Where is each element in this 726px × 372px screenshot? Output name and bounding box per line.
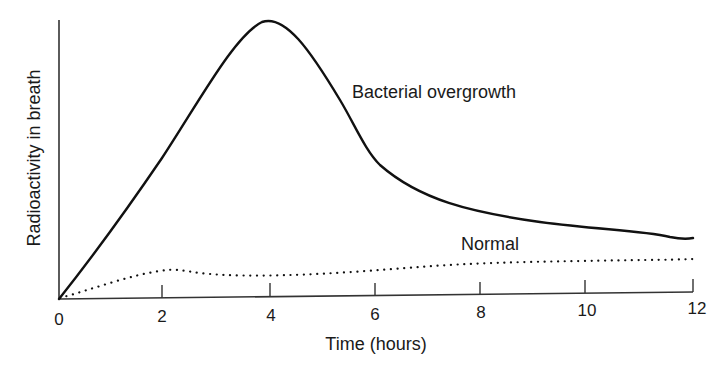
tick-label-12: 12 [688,299,707,318]
x-axis [59,292,693,299]
tick-label-2: 2 [157,307,166,326]
x-axis-title: Time (hours) [325,334,426,354]
tick-label-6: 6 [370,305,379,324]
tick-label-8: 8 [476,303,485,322]
series-normal [60,259,693,298]
tick-label-4: 4 [266,306,275,325]
label-normal: Normal [461,234,519,254]
series-bacterial-overgrowth [59,21,693,299]
x-tick-labels: 0 2 4 6 8 10 12 [54,299,706,329]
label-bacterial-overgrowth: Bacterial overgrowth [352,82,516,102]
y-axis-title: Radioactivity in breath [24,69,44,246]
tick-label-10: 10 [578,301,597,320]
chart-svg: 0 2 4 6 8 10 12 Time (hours) Radioactivi… [0,0,726,372]
breath-radioactivity-chart: 0 2 4 6 8 10 12 Time (hours) Radioactivi… [0,0,726,372]
tick-label-0: 0 [54,310,63,329]
